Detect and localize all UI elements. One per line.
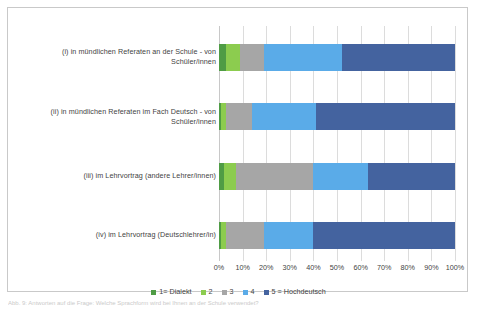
x-tick-label-10: 10% — [235, 263, 249, 273]
category-label-iv: (iv) im Lehrvortrag (Deutschlehrer/in) — [18, 230, 216, 240]
bar-segment — [342, 44, 455, 71]
legend-swatch-icon — [201, 290, 206, 295]
legend-item[interactable]: 3 — [222, 287, 234, 297]
legend-swatch-icon — [243, 290, 248, 295]
bar-segment — [313, 222, 455, 249]
bar-segment — [224, 163, 236, 190]
legend-label: 3 — [230, 287, 234, 297]
legend-item[interactable]: 2 — [201, 287, 213, 297]
bar-row — [219, 163, 455, 190]
legend-item[interactable]: 4 — [243, 287, 255, 297]
figure-caption: Abb. 9: Antworten auf die Frage: Welche … — [8, 299, 469, 307]
legend-swatch-icon — [264, 290, 269, 295]
bar-segment — [236, 163, 314, 190]
x-tick-label-30: 30% — [283, 263, 297, 273]
bar-row — [219, 103, 455, 130]
legend-label: 1= Dialekt — [159, 287, 191, 297]
x-tick-label-100: 100% — [446, 263, 464, 273]
x-tick-label-80: 80% — [401, 263, 415, 273]
legend-item[interactable]: 1= Dialekt — [151, 287, 191, 297]
x-tick-label-60: 60% — [353, 263, 367, 273]
bar-segment — [219, 44, 226, 71]
bar-segment — [226, 44, 240, 71]
legend-swatch-icon — [151, 290, 156, 295]
bar-row — [219, 222, 455, 249]
bar-segment — [226, 103, 252, 130]
category-axis-labels: (i) in mündlichen Referaten an der Schul… — [18, 26, 216, 261]
bar-segment — [316, 103, 455, 130]
bar-row — [219, 44, 455, 71]
chart-frame: (i) in mündlichen Referaten an der Schul… — [7, 7, 468, 292]
bar-segment — [226, 222, 264, 249]
chart-legend: 1= Dialekt2345 = Hochdeutsch — [8, 287, 469, 297]
plot-area — [219, 26, 455, 261]
legend-label: 2 — [209, 287, 213, 297]
x-tick-label-20: 20% — [259, 263, 273, 273]
x-axis-tick-labels: 0%10%20%30%40%50%60%70%80%90%100% — [219, 263, 455, 275]
bar-segment — [368, 163, 455, 190]
bar-segment — [264, 222, 314, 249]
gridline-100 — [455, 26, 456, 261]
bar-segment — [264, 44, 342, 71]
x-tick-label-90: 90% — [424, 263, 438, 273]
x-tick-label-70: 70% — [377, 263, 391, 273]
legend-label: 5 = Hochdeutsch — [272, 287, 326, 297]
x-tick-label-0: 0% — [214, 263, 224, 273]
bar-segment — [313, 163, 367, 190]
category-label-i: (i) in mündlichen Referaten an der Schul… — [18, 47, 216, 67]
x-tick-label-50: 50% — [330, 263, 344, 273]
x-tick-label-40: 40% — [306, 263, 320, 273]
legend-swatch-icon — [222, 290, 227, 295]
bar-segment — [252, 103, 316, 130]
legend-label: 4 — [251, 287, 255, 297]
category-label-ii: (ii) in mündlichen Referaten im Fach Deu… — [18, 107, 216, 127]
category-label-iii: (iii) im Lehrvortrag (andere Lehrer/inne… — [18, 171, 216, 181]
legend-item[interactable]: 5 = Hochdeutsch — [264, 287, 326, 297]
figure-page: (i) in mündlichen Referaten an der Schul… — [0, 0, 477, 316]
bar-segment — [240, 44, 264, 71]
